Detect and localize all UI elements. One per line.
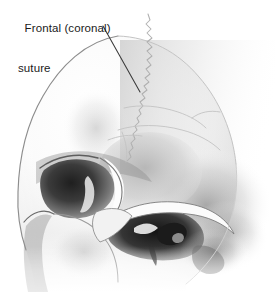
figure-bottom-fade — [0, 246, 275, 292]
annotation-label-frontal-coronal-suture: Frontal (coronal) suture — [18, 8, 111, 89]
annotation-label-line1: Frontal (coronal) — [25, 22, 111, 34]
annotation-label-line2: suture — [18, 62, 111, 76]
